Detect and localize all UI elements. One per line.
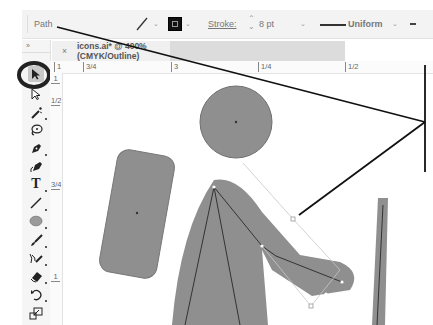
annotation-line-bottom — [299, 122, 425, 215]
annotation-overlay — [0, 0, 433, 325]
annotation-line-top — [57, 27, 425, 122]
